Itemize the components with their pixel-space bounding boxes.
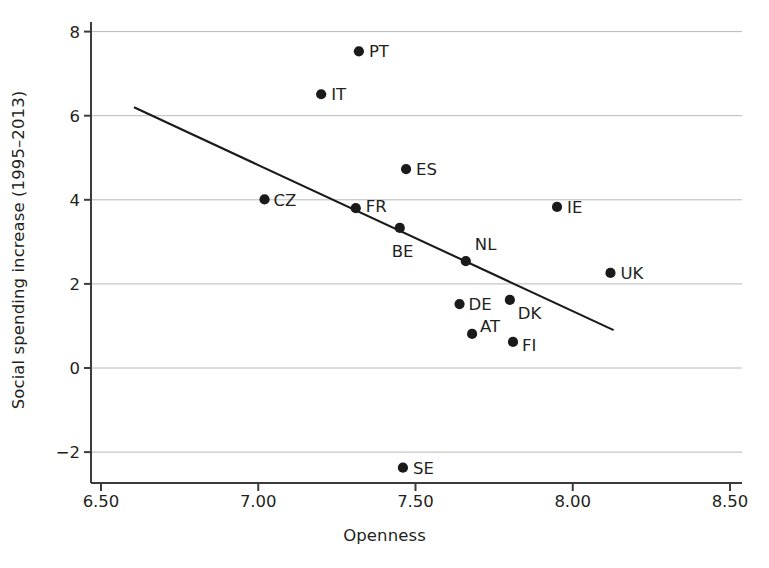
y-tick-label: 8: [40, 22, 80, 41]
data-point-fr[interactable]: [351, 203, 361, 213]
fitted-regression-line: [134, 107, 614, 330]
point-label-pt: PT: [369, 42, 389, 61]
x-tick-label: 8.50: [712, 492, 749, 511]
point-label-fi: FI: [522, 335, 536, 354]
data-point-it[interactable]: [316, 89, 326, 99]
point-label-uk: UK: [620, 263, 643, 282]
data-point-cz[interactable]: [259, 194, 269, 204]
data-point-fi[interactable]: [508, 337, 518, 347]
point-label-se: SE: [413, 458, 434, 477]
data-point-es[interactable]: [401, 164, 411, 174]
gridlines: [91, 32, 742, 453]
scatter-plot-figure: Social spending increase (1995–2013) Ope…: [0, 0, 769, 568]
x-tick-label: 7.00: [240, 492, 277, 511]
y-tick-label: 0: [40, 359, 80, 378]
data-point-ie[interactable]: [552, 202, 562, 212]
data-point-dk[interactable]: [505, 295, 515, 305]
data-points: [259, 46, 615, 472]
point-label-it: IT: [331, 85, 346, 104]
data-point-nl[interactable]: [461, 256, 471, 266]
point-label-cz: CZ: [274, 191, 297, 210]
x-tick-label: 8.00: [554, 492, 591, 511]
point-label-de: DE: [469, 295, 492, 314]
y-tick-label: 6: [40, 106, 80, 125]
data-point-be[interactable]: [395, 223, 405, 233]
data-point-uk[interactable]: [605, 268, 615, 278]
x-tick-label: 7.50: [397, 492, 434, 511]
plot-canvas: [0, 0, 769, 568]
point-label-at: AT: [480, 316, 500, 335]
data-point-se[interactable]: [398, 463, 408, 473]
point-label-nl: NL: [475, 235, 497, 254]
point-label-fr: FR: [366, 197, 387, 216]
point-label-es: ES: [416, 160, 437, 179]
y-axis-title-container: Social spending increase (1995–2013): [0, 0, 36, 500]
data-point-at[interactable]: [467, 329, 477, 339]
y-tick-label: −2: [40, 443, 80, 462]
point-label-ie: IE: [567, 197, 582, 216]
y-tick-label: 4: [40, 190, 80, 209]
y-tick-label: 2: [40, 274, 80, 293]
data-point-de[interactable]: [454, 299, 464, 309]
data-point-pt[interactable]: [354, 46, 364, 56]
x-axis-title: Openness: [0, 526, 769, 545]
point-label-dk: DK: [518, 303, 542, 322]
y-axis-title: Social spending increase (1995–2013): [9, 91, 28, 410]
x-tick-label: 6.50: [83, 492, 120, 511]
point-label-be: BE: [392, 241, 414, 260]
